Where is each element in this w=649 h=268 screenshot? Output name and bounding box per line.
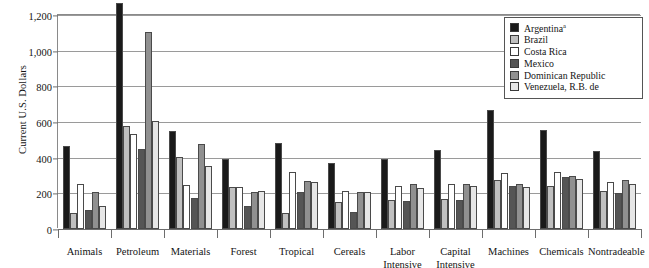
bar	[258, 191, 265, 229]
y-tick-label: 400	[36, 153, 52, 164]
legend-swatch-icon	[510, 47, 519, 56]
bar	[92, 192, 99, 229]
x-tick-mark	[270, 229, 271, 238]
legend-swatch-icon	[510, 71, 519, 80]
legend-item[interactable]: Argentinaa	[510, 22, 637, 34]
bar	[251, 192, 258, 229]
legend-item[interactable]: Brazil	[510, 34, 637, 46]
legend-swatch-icon	[510, 35, 519, 44]
bar	[244, 206, 251, 229]
legend-label: Dominican Republic	[524, 70, 605, 81]
bar	[487, 110, 494, 229]
x-axis-label: Chemicals	[535, 246, 588, 259]
x-tick-mark	[217, 229, 218, 238]
bar	[77, 184, 84, 229]
bar-group	[376, 15, 429, 229]
x-axis-label: Forest	[217, 246, 270, 259]
bar	[116, 3, 123, 229]
bar	[176, 157, 183, 229]
bar	[622, 180, 629, 229]
x-axis-label: Nontradeable	[588, 246, 641, 259]
legend-footnote-marker: a	[563, 22, 566, 29]
bar	[381, 159, 388, 229]
bar	[456, 200, 463, 229]
bar	[410, 184, 417, 229]
bar	[441, 199, 448, 229]
bar-group	[429, 15, 482, 229]
legend-label: Argentinaa	[524, 22, 566, 34]
bar	[417, 188, 424, 229]
bar-group	[164, 15, 217, 229]
bar	[222, 159, 229, 229]
y-tick-label: 600	[36, 118, 52, 129]
x-tick-mark	[482, 229, 483, 238]
bar	[509, 186, 516, 229]
bar	[576, 179, 583, 229]
bar	[540, 130, 547, 229]
bar	[205, 166, 212, 229]
bar	[335, 202, 342, 229]
x-axis-label: Petroleum	[111, 246, 164, 259]
legend-label: Brazil	[524, 34, 548, 45]
bar	[569, 176, 576, 230]
bar	[463, 184, 470, 229]
x-tick-mark	[641, 229, 642, 238]
bar-chart: Current U.S. Dollars 02004006008001,0001…	[0, 0, 649, 268]
bar-group	[58, 15, 111, 229]
bar	[304, 181, 311, 229]
bar	[448, 184, 455, 229]
x-tick-mark	[58, 229, 59, 238]
legend-item[interactable]: Dominican Republic	[510, 69, 637, 81]
bar	[282, 213, 289, 229]
bar	[99, 206, 106, 229]
x-tick-mark	[535, 229, 536, 238]
y-tick-label: 1,200	[28, 11, 52, 22]
bar-group	[270, 15, 323, 229]
bar	[198, 144, 205, 229]
bar	[85, 210, 92, 229]
x-tick-mark	[164, 229, 165, 238]
bar	[547, 186, 554, 229]
bar	[236, 187, 243, 229]
bar	[388, 200, 395, 229]
bar	[289, 172, 296, 229]
bar	[629, 184, 636, 229]
x-axis-label: Cereals	[323, 246, 376, 259]
x-tick-mark	[376, 229, 377, 238]
x-axis-label: Animals	[58, 246, 111, 259]
bar	[562, 177, 569, 229]
bar	[123, 126, 130, 229]
y-tick-label: 1,000	[28, 46, 52, 57]
legend-item[interactable]: Venezuela, R.B. de	[510, 81, 637, 93]
bar	[275, 143, 282, 229]
x-tick-mark	[429, 229, 430, 238]
legend-swatch-icon	[510, 82, 519, 91]
bar	[70, 213, 77, 229]
bar	[593, 151, 600, 229]
bar	[357, 192, 364, 229]
bar	[600, 191, 607, 229]
bar	[523, 187, 530, 229]
legend-label: Costa Rica	[524, 46, 567, 57]
x-axis-label: Machines	[482, 246, 535, 259]
bar-group	[111, 15, 164, 229]
y-axis-title: Current U.S. Dollars	[17, 10, 28, 210]
legend-item[interactable]: Costa Rica	[510, 46, 637, 58]
legend-item[interactable]: Mexico	[510, 57, 637, 69]
bar	[297, 192, 304, 229]
legend-swatch-icon	[510, 59, 519, 68]
y-tick-label: 200	[36, 189, 52, 200]
x-axis-label: Tropical	[270, 246, 323, 259]
bar	[501, 173, 508, 229]
y-tick-label: 0	[47, 225, 52, 236]
x-tick-mark	[323, 229, 324, 238]
bar	[191, 198, 198, 229]
x-tick-mark	[111, 229, 112, 238]
bar	[615, 193, 622, 229]
bar	[554, 172, 561, 229]
bar	[130, 134, 137, 229]
bar	[229, 187, 236, 229]
legend-swatch-icon	[510, 23, 519, 32]
x-axis-label: Labor Intensive	[376, 246, 429, 268]
bar	[494, 180, 501, 229]
